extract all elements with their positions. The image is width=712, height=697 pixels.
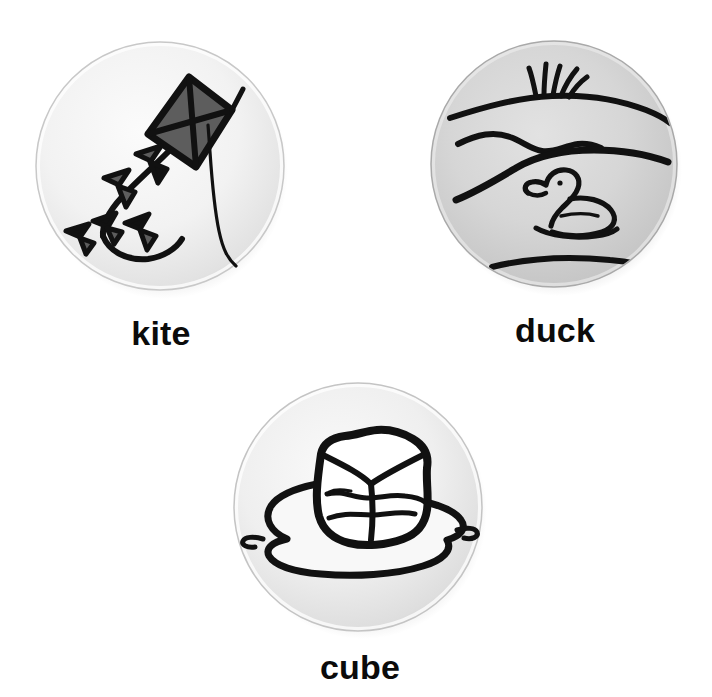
duck-beak bbox=[528, 193, 546, 195]
kite-disc bbox=[30, 28, 292, 306]
kite-illustration bbox=[30, 28, 292, 306]
card-label-kite: kite bbox=[30, 316, 292, 350]
cube-disc bbox=[229, 378, 491, 646]
card-label-cube: cube bbox=[229, 650, 491, 684]
duck-disc bbox=[424, 28, 686, 306]
duck-illustration bbox=[424, 28, 686, 306]
card-label-duck: duck bbox=[424, 313, 686, 347]
cube-illustration bbox=[229, 378, 491, 646]
cube-edge-vertical bbox=[371, 484, 373, 540]
duck-eye bbox=[557, 180, 562, 185]
